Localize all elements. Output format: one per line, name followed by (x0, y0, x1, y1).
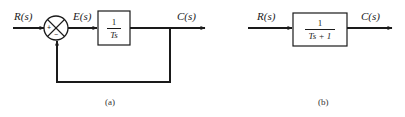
caption-a: (a) (105, 98, 115, 107)
block-b-fraction: 1 Ts + 1 (293, 13, 347, 46)
block-a-numerator: 1 (112, 17, 117, 27)
output-label-a: C(s) (177, 11, 196, 22)
error-label: E(s) (73, 11, 91, 22)
plus-sign: + (47, 24, 51, 31)
fraction-bar (305, 29, 335, 30)
block-b-denominator: Ts + 1 (309, 31, 332, 41)
caption-b: (b) (318, 98, 329, 107)
output-label-b: C(s) (361, 11, 380, 22)
fraction-bar (107, 28, 121, 29)
input-label-b: R(s) (257, 11, 275, 22)
block-a-denominator: Ts (110, 30, 118, 40)
minus-sign: − (54, 31, 58, 38)
input-label-a: R(s) (14, 11, 32, 22)
block-b-numerator: 1 (318, 18, 323, 28)
block-a-fraction: 1 Ts (98, 11, 130, 45)
